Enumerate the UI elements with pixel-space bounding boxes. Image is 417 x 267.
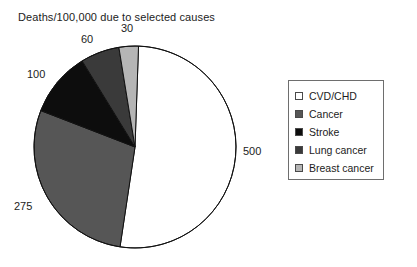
legend-item-stroke: Stroke (295, 123, 383, 141)
legend-item-label: CVD/CHD (309, 90, 357, 102)
legend-swatch-icon (295, 92, 303, 100)
legend-item-cvd-chd: CVD/CHD (295, 87, 383, 105)
pie-chart-figure: Deaths/100,000 due to selected causes 50… (0, 0, 417, 267)
legend-item-label: Lung cancer (309, 144, 367, 156)
legend-swatch-icon (295, 146, 303, 154)
slice-label-lung-cancer: 60 (81, 33, 93, 45)
slice-label-stroke: 100 (27, 68, 45, 80)
slice-label-cvd-chd: 500 (243, 145, 261, 157)
legend-item-label: Cancer (309, 108, 343, 120)
legend-item-lung-cancer: Lung cancer (295, 141, 383, 159)
legend-item-cancer: Cancer (295, 105, 383, 123)
legend-item-label: Stroke (309, 126, 339, 138)
legend-item-breast-cancer: Breast cancer (295, 159, 383, 177)
legend-item-label: Breast cancer (309, 162, 374, 174)
slice-label-breast-cancer: 30 (121, 22, 133, 34)
slice-label-cancer: 275 (14, 200, 32, 212)
legend-swatch-icon (295, 110, 303, 118)
pie-slices-group (34, 46, 236, 248)
chart-legend: CVD/CHD Cancer Stroke Lung cancer Breast… (288, 80, 384, 180)
legend-swatch-icon (295, 128, 303, 136)
legend-swatch-icon (295, 164, 303, 172)
